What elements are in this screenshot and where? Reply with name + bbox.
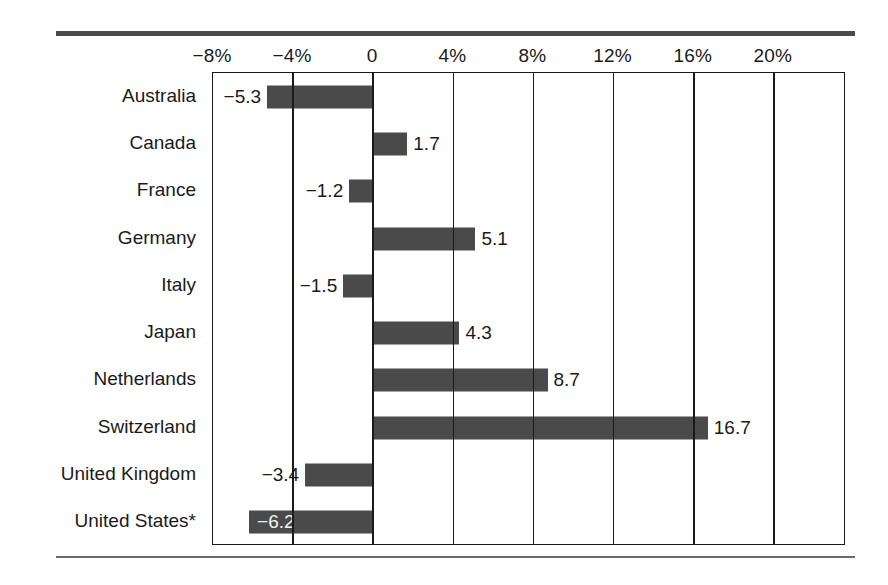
bar-value-label: 1.7 bbox=[413, 133, 439, 155]
bar-value-label: −1.2 bbox=[306, 180, 344, 202]
x-tick-label: 20% bbox=[754, 45, 793, 67]
bar bbox=[267, 85, 373, 108]
x-tick-label: 4% bbox=[438, 45, 466, 67]
bottom-rule bbox=[56, 556, 855, 558]
x-tick-label: −8% bbox=[192, 45, 231, 67]
category-label: Germany bbox=[118, 227, 196, 249]
gridline bbox=[292, 73, 294, 544]
category-axis-labels: AustraliaCanadaFranceGermanyItalyJapanNe… bbox=[0, 72, 204, 545]
category-label: Japan bbox=[144, 321, 196, 343]
category-label: Canada bbox=[129, 132, 196, 154]
bar bbox=[373, 416, 708, 439]
bar-value-label: −1.5 bbox=[300, 275, 338, 297]
gridline bbox=[693, 73, 695, 544]
bar bbox=[343, 274, 373, 297]
bar bbox=[305, 464, 373, 487]
x-tick-label: −4% bbox=[273, 45, 312, 67]
category-label: Netherlands bbox=[94, 368, 196, 390]
category-label: France bbox=[137, 179, 196, 201]
bar-value-label: 5.1 bbox=[481, 228, 507, 250]
bar-value-label: −6.2 bbox=[257, 511, 295, 533]
bar bbox=[373, 322, 459, 345]
bar-value-label: −5.3 bbox=[224, 86, 262, 108]
gridline bbox=[372, 73, 374, 544]
top-rule bbox=[56, 31, 855, 36]
category-label: Switzerland bbox=[98, 416, 196, 438]
plot-area: −5.31.7−1.25.1−1.54.38.716.7−3.4−6.2 bbox=[212, 72, 845, 545]
bar bbox=[373, 227, 475, 250]
category-label: Australia bbox=[122, 85, 196, 107]
x-tick-label: 16% bbox=[673, 45, 712, 67]
gridline bbox=[453, 73, 455, 544]
gridline bbox=[533, 73, 535, 544]
category-label: United Kingdom bbox=[61, 463, 196, 485]
bar-value-label: 4.3 bbox=[465, 322, 491, 344]
bar-series: −5.31.7−1.25.1−1.54.38.716.7−3.4−6.2 bbox=[213, 73, 844, 544]
category-label: United States* bbox=[75, 510, 196, 532]
gridline bbox=[773, 73, 775, 544]
x-tick-label: 8% bbox=[519, 45, 547, 67]
chart-figure: −8%−4%04%8%12%16%20% AustraliaCanadaFran… bbox=[0, 0, 888, 585]
bar-value-label: 8.7 bbox=[554, 369, 580, 391]
x-tick-label: 0 bbox=[367, 45, 378, 67]
bar bbox=[349, 180, 373, 203]
bar bbox=[373, 369, 547, 392]
category-label: Italy bbox=[161, 274, 196, 296]
bar bbox=[373, 132, 407, 155]
gridline bbox=[613, 73, 615, 544]
x-tick-label: 12% bbox=[593, 45, 632, 67]
bar-value-label: 16.7 bbox=[714, 417, 751, 439]
x-axis-tick-labels: −8%−4%04%8%12%16%20% bbox=[0, 45, 888, 69]
